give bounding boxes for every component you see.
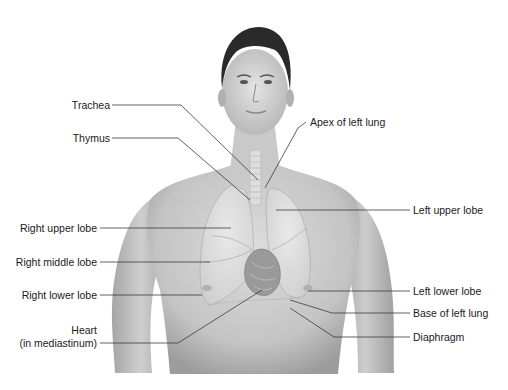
label-right-middle-lobe: Right middle lobe: [0, 256, 97, 268]
label-heart-sub: (in mediastinum): [0, 337, 97, 349]
anatomy-figure: Trachea Thymus Right upper lobe Right mi…: [0, 0, 508, 390]
label-right-upper-lobe: Right upper lobe: [0, 222, 97, 234]
label-base-of-left-lung: Base of left lung: [413, 307, 488, 319]
label-trachea: Trachea: [40, 99, 110, 111]
heart-shape: [245, 249, 281, 295]
label-heart: Heart: [0, 324, 97, 336]
label-thymus: Thymus: [40, 132, 110, 144]
label-right-lower-lobe: Right lower lobe: [0, 289, 97, 301]
label-left-upper-lobe: Left upper lobe: [413, 204, 483, 216]
label-apex-of-left-lung: Apex of left lung: [310, 116, 385, 128]
label-left-lower-lobe: Left lower lobe: [413, 285, 481, 297]
label-diaphragm: Diaphragm: [413, 331, 464, 343]
